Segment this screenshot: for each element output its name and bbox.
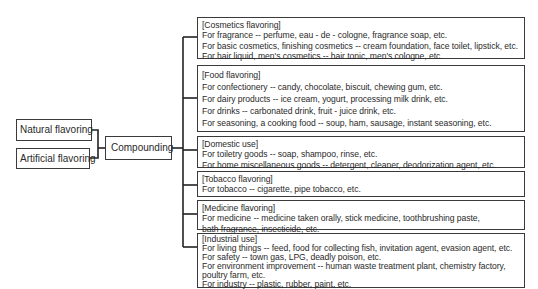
category-line: For hair liquid, men's cosmetics -- hair… xyxy=(202,51,524,61)
category-line: For tobacco -- cigarette, pipe tobacco, … xyxy=(202,184,524,194)
category-box-industrial: [Industrial use] For living things -- fe… xyxy=(197,233,525,288)
category-line: For medicine -- medicine taken orally, s… xyxy=(202,213,524,223)
compounding-box: Compounding xyxy=(105,136,172,160)
category-line: For basic cosmetics, finishing cosmetics… xyxy=(202,41,524,51)
category-title: [Medicine flavoring] xyxy=(202,203,524,213)
category-box-medicine: [Medicine flavoring] For medicine -- med… xyxy=(197,200,525,230)
natural-flavoring-box: Natural flavoring xyxy=(16,119,92,141)
category-title: [Cosmetics flavoring] xyxy=(202,20,524,30)
category-line: For home miscellaneous goods -- detergen… xyxy=(202,160,524,170)
category-box-domestic: [Domestic use] For toiletry goods -- soa… xyxy=(197,136,525,168)
category-box-food: [Food flavoring] For confectionery -- ca… xyxy=(197,65,525,132)
category-line: For industry -- plastic, rubber, paint, … xyxy=(202,280,524,289)
category-line: For confectionery -- candy, chocolate, b… xyxy=(202,81,524,93)
category-title: [Tobacco flavoring] xyxy=(202,174,524,184)
natural-flavoring-label: Natural flavoring xyxy=(20,124,93,135)
category-line: For toiletry goods -- soap, shampoo, rin… xyxy=(202,149,524,159)
category-line: For drinks -- carbonated drink, fruit - … xyxy=(202,105,524,117)
artificial-flavoring-box: Artificial flavoring xyxy=(16,148,90,169)
category-line: For fragrance -- perfume, eau - de - col… xyxy=(202,30,524,40)
category-box-cosmetics: [Cosmetics flavoring] For fragrance -- p… xyxy=(197,17,525,59)
artificial-flavoring-label: Artificial flavoring xyxy=(20,153,96,164)
category-title: [Food flavoring] xyxy=(202,69,524,81)
category-line: For dairy products -- ice cream, yogurt,… xyxy=(202,93,524,105)
category-box-tobacco: [Tobacco flavoring] For tobacco -- cigar… xyxy=(197,171,525,197)
category-line: For seasoning, a cooking food -- soup, h… xyxy=(202,117,524,129)
compounding-label: Compounding xyxy=(111,142,173,153)
category-title: [Domestic use] xyxy=(202,139,524,149)
